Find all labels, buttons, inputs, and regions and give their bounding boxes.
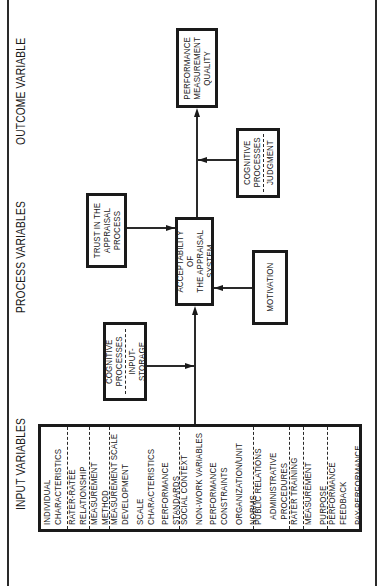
input-group-measurement-purpose: MEASUREMENT PURPOSE [303,427,327,529]
input-group-social-context: SOCIAL CONTEXT NON-WORK VARIABLES PERFOR… [179,427,253,529]
input-group-individual: INDIVIDUAL CHARACTERISTICS [43,427,67,529]
box-label: INPUT-STORAGE [127,329,147,393]
input-item: MEASUREMENT [304,439,313,525]
input-item: PERFORMANCE [161,439,170,525]
input-item: RATER-RATEE [68,439,77,525]
input-group-rater-ratee: RATER-RATEE RELATIONSHIP [67,427,89,529]
cognitive-input-storage-box: COGNITIVE PROCESSES INPUT-STORAGE [103,322,147,401]
input-item: CONSTRAINTS [220,439,229,525]
input-item: SCALE [136,439,145,525]
arrow-head-icon [194,108,200,117]
input-group-public-relations: PUBLIC RELATIONS ADMINISTRATIVE PROCEDUR… [253,427,289,529]
connector-input-to-acceptability [194,314,196,424]
frame-line-top [7,0,9,586]
input-item: CHARACTERISTICS [147,439,156,525]
input-item: PURPOSE [319,439,328,525]
input-item: PERFORMANCE [328,439,337,525]
arrow-head-icon [198,157,207,163]
arrow-head-icon [214,285,223,291]
input-item: NON-WORK VARIABLES [195,439,204,525]
box-label: MOTIVATION [265,263,275,312]
acceptability-box: ACCEPTABILITY OF THE APPRAISAL SYSTEM [175,217,214,306]
box-label: TRUST IN THE [92,203,102,258]
input-item: PROCEDURES [280,439,289,525]
connector-acceptability-to-outcome [196,116,198,217]
arrow-head-icon [185,363,194,369]
cognitive-judgment-box: COGNITIVE PROCESSES JUDGMENT [236,128,280,198]
input-group-measurement-method: MEASUREMENT METHOD [89,427,109,529]
frame-line-bottom [375,0,377,586]
motivation-box: MOTIVATION [252,250,288,325]
box-label: MEASUREMENT [192,37,202,100]
input-item: ORGANIZATION/UNIT [235,439,244,525]
input-item: PAY-PERFORMANCE [354,439,363,525]
input-variables-header: INPUT VARIABLES [14,418,28,510]
box-label: COGNITIVE [242,141,252,185]
box-label: COGNITIVE [104,339,114,383]
input-item: FEEDBACK [339,439,348,525]
box-label: THE APPRAISAL [195,230,205,293]
input-item: ADMINISTRATIVE [269,439,278,525]
input-group-performance-feedback: PERFORMANCE FEEDBACK PAY-PERFORMANCE [327,427,361,529]
input-item: PERFORMANCE [209,439,218,525]
outcome-variable-header: OUTCOME VARIABLE [14,38,28,145]
box-label: PROCESS [112,211,122,250]
box-label: PROCESSES [114,336,124,386]
input-group-rater-training: RATER TRAINING [289,427,303,529]
box-divider [125,329,126,395]
box-label: APPRAISAL [102,208,112,253]
box-label: PERFORMANCE [182,37,192,100]
box-label: PROCESSES [252,138,262,188]
input-item: DEVELOPMENT [121,439,130,525]
input-item: SOCIAL CONTEXT [180,439,189,525]
box-label: ACCEPTABILITY OF [175,225,195,298]
arrow-head-icon [166,225,175,231]
box-label: SYSTEM [205,245,215,278]
input-group-measurement-scale: MEASUREMENT SCALE DEVELOPMENT SCALE CHAR… [109,427,179,529]
input-item: CHARACTERISTICS [54,439,63,525]
input-item: PUBLIC RELATIONS [254,439,263,525]
input-variables-box: INDIVIDUAL CHARACTERISTICS RATER-RATEE R… [38,424,362,532]
box-divider [263,134,264,192]
performance-measurement-quality-box: PERFORMANCE MEASUREMENT QUALITY [176,28,218,108]
box-label: JUDGMENT [265,141,275,186]
trust-box: TRUST IN THE APPRAISAL PROCESS [86,193,127,268]
input-item: MEASUREMENT [90,439,99,525]
appraisal-model-diagram: INPUT VARIABLES PROCESS VARIABLES OUTCOM… [0,0,381,586]
input-item: INDIVIDUAL [43,439,52,525]
box-label: QUALITY [202,51,212,86]
input-item: RATER TRAINING [290,439,299,525]
input-item: MEASUREMENT SCALE [110,439,119,525]
process-variables-header: PROCESS VARIABLES [14,201,28,313]
input-item: RELATIONSHIP [79,439,88,525]
arrow-head-icon [192,306,198,315]
